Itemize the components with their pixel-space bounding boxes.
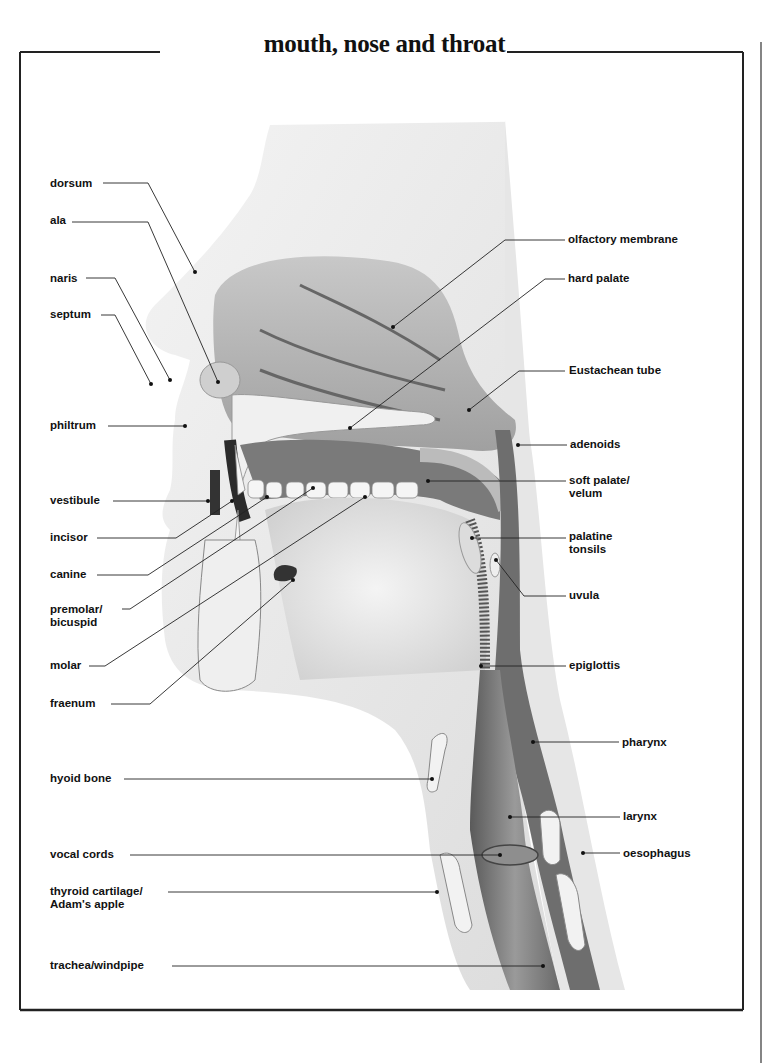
label-thyroid-cartilage: thyroid cartilage/ Adam's apple (50, 885, 143, 911)
label-pharynx: pharynx (622, 736, 667, 749)
label-dorsum: dorsum (50, 177, 92, 190)
label-palatine-tonsils: palatine tonsils (569, 530, 612, 556)
label-hyoid-bone: hyoid bone (50, 772, 111, 785)
label-oesophagus: oesophagus (623, 847, 691, 860)
label-vocal-cords: vocal cords (50, 848, 114, 861)
label-uvula: uvula (569, 589, 599, 602)
label-naris: naris (50, 272, 78, 285)
label-vestibule: vestibule (50, 494, 100, 507)
tongue (265, 498, 488, 680)
label-epiglottis: epiglottis (569, 659, 620, 672)
label-incisor: incisor (50, 531, 88, 544)
label-hard-palate: hard palate (568, 272, 629, 285)
label-soft-palate: soft palate/ velum (569, 474, 630, 500)
label-fraenum: fraenum (50, 697, 95, 710)
label-adenoids: adenoids (570, 438, 620, 451)
label-molar: molar (50, 659, 81, 672)
label-trachea: trachea/windpipe (50, 959, 144, 972)
label-larynx: larynx (623, 810, 657, 823)
label-philtrum: philtrum (50, 419, 96, 432)
label-canine: canine (50, 568, 86, 581)
label-eustachean-tube: Eustachean tube (569, 364, 661, 377)
label-ala: ala (50, 214, 66, 227)
label-premolar: premolar/ bicuspid (50, 603, 102, 629)
label-septum: septum (50, 308, 91, 321)
label-olfactory-membrane: olfactory membrane (568, 233, 678, 246)
